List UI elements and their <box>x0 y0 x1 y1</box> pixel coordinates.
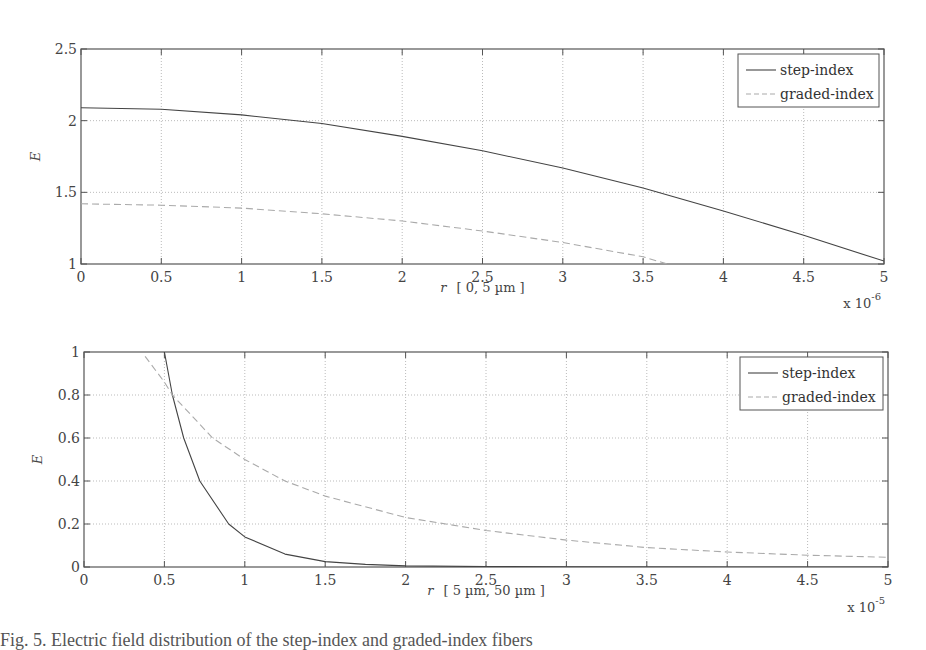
y-axis-label: E <box>30 454 45 465</box>
x-tick-label: 2 <box>401 572 410 588</box>
y-tick-label: 1 <box>68 256 77 272</box>
x-tick-label: 4 <box>719 269 728 285</box>
x-tick-label: 3.5 <box>636 572 658 588</box>
y-tick-label: 0 <box>71 559 80 575</box>
x-tick-label: 5 <box>884 572 893 588</box>
x-tick-label: 0.5 <box>153 572 175 588</box>
y-tick-label: 2.5 <box>55 41 77 57</box>
x-exponent-label: x 10-5 <box>847 595 885 615</box>
y-tick-label: 2 <box>68 113 77 129</box>
legend: step-indexgraded-index <box>738 54 879 107</box>
x-tick-label: 0 <box>77 269 86 285</box>
x-tick-label: 4.5 <box>793 269 815 285</box>
y-axis-label: E <box>28 151 43 162</box>
x-tick-label: 4.5 <box>796 572 818 588</box>
y-tick-label: 0.8 <box>58 387 80 403</box>
x-tick-label: 3 <box>558 269 567 285</box>
x-axis-label: r[ 0, 5 µm ] <box>440 280 524 295</box>
y-tick-label: 1.5 <box>55 184 77 200</box>
x-tick-label: 0 <box>80 572 89 588</box>
series-graded-index <box>81 204 667 264</box>
legend-label: graded-index <box>780 86 874 102</box>
x-exponent-label: x 10-6 <box>843 291 881 311</box>
x-tick-label: 1 <box>237 269 246 285</box>
y-tick-label: 0.6 <box>58 430 80 446</box>
legend-label: step-index <box>780 62 854 78</box>
x-tick-label: 5 <box>880 269 889 285</box>
y-tick-label: 0.4 <box>58 473 80 489</box>
plot-1: 00.511.522.533.544.5511.522.5r[ 0, 5 µm … <box>28 41 888 311</box>
x-tick-label: 1.5 <box>314 572 336 588</box>
x-tick-label: 1.5 <box>311 269 333 285</box>
x-tick-label: 4 <box>723 572 732 588</box>
x-axis-label: r[ 5 µm, 50 µm ] <box>427 583 545 598</box>
x-tick-label: 1 <box>240 572 249 588</box>
legend-label: graded-index <box>782 389 876 405</box>
legend: step-indexgraded-index <box>740 357 883 410</box>
y-tick-label: 1 <box>71 344 80 360</box>
x-tick-label: 3.5 <box>632 269 654 285</box>
figure-caption: Fig. 5. Electric field distribution of t… <box>0 630 926 650</box>
plot-2: 00.511.522.533.544.5500.20.40.60.81r[ 5 … <box>30 344 892 615</box>
x-tick-label: 2 <box>398 269 407 285</box>
y-tick-label: 0.2 <box>58 516 80 532</box>
legend-label: step-index <box>782 365 856 381</box>
x-tick-label: 3 <box>562 572 571 588</box>
x-tick-label: 0.5 <box>150 269 172 285</box>
